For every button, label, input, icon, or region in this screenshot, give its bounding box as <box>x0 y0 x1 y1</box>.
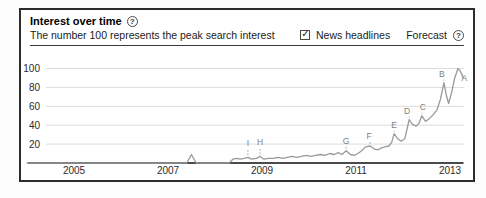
annotation-letter-E[interactable]: E <box>391 120 397 130</box>
series-line-search-interest <box>27 69 463 164</box>
annotation-letter-F[interactable]: F <box>367 131 372 141</box>
checkmark-icon: ✓ <box>301 29 309 39</box>
y-tick-label-80: 80 <box>29 82 41 93</box>
news-headlines-checkbox[interactable]: ✓ <box>300 30 310 40</box>
page-title: Interest over time <box>30 15 122 27</box>
annotation-letter-C[interactable]: C <box>420 102 426 112</box>
forecast-label[interactable]: Forecast <box>406 29 447 41</box>
news-headlines-label[interactable]: News headlines <box>316 29 390 41</box>
x-tick-label-2013: 2013 <box>439 165 462 176</box>
title-help-icon[interactable]: ? <box>127 16 138 27</box>
x-tick-label-2005: 2005 <box>63 165 86 176</box>
annotation-letter-G[interactable]: G <box>343 136 350 146</box>
annotation-letter-I[interactable]: I <box>247 138 249 148</box>
x-tick-label-2009: 2009 <box>251 165 274 176</box>
forecast-help-icon[interactable]: ? <box>453 30 464 41</box>
y-tick-label-60: 60 <box>29 101 41 112</box>
annotation-letter-D[interactable]: D <box>404 106 410 116</box>
annotation-letter-A[interactable]: A <box>462 73 468 83</box>
y-tick-label-40: 40 <box>29 120 41 131</box>
interest-over-time-widget: Interest over time ? The number 100 repr… <box>19 8 475 182</box>
title-row: Interest over time ? <box>30 15 464 27</box>
screenshot-root: Interest over time ? The number 100 repr… <box>0 0 486 198</box>
interest-chart: 1008060402020052007200920112013ABCDEFGHI <box>22 44 474 182</box>
y-tick-label-100: 100 <box>23 63 40 74</box>
chart-controls: ✓ News headlines Forecast ? <box>300 29 464 41</box>
subtitle-row: The number 100 represents the peak searc… <box>30 29 464 41</box>
annotation-letter-B[interactable]: B <box>439 69 445 79</box>
widget-header: Interest over time ? The number 100 repr… <box>21 10 473 46</box>
x-tick-label-2007: 2007 <box>157 165 180 176</box>
x-tick-label-2011: 2011 <box>345 165 367 176</box>
widget-subtitle: The number 100 represents the peak searc… <box>30 29 275 41</box>
annotation-letter-H[interactable]: H <box>257 137 263 147</box>
y-tick-label-20: 20 <box>29 139 41 150</box>
